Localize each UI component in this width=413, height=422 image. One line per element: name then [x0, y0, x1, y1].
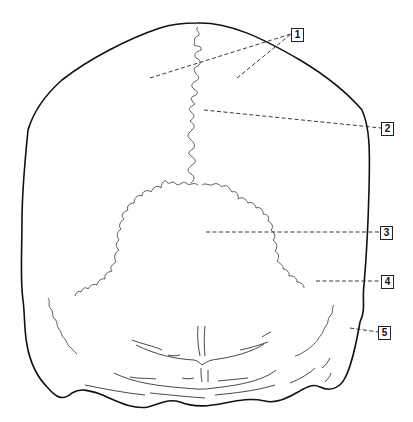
- nuchal-lines: [85, 326, 331, 398]
- skull-outline: [21, 23, 369, 408]
- occipitomastoid-suture-right: [295, 305, 334, 356]
- lambdoid-suture-right: [202, 184, 304, 288]
- leader-5: [350, 328, 378, 332]
- skull-posterior-view-drawing: [0, 0, 413, 422]
- label-3: 3: [380, 226, 393, 240]
- label-5: 5: [378, 326, 391, 340]
- leader-lines: [150, 34, 381, 332]
- label-4: 4: [381, 275, 394, 289]
- occipitomastoid-suture-left: [48, 298, 77, 354]
- leader-2: [204, 110, 381, 128]
- sagittal-suture: [188, 27, 201, 183]
- label-2: 2: [381, 122, 394, 136]
- lambdoid-suture-left: [75, 181, 198, 296]
- leader-1a: [150, 34, 291, 78]
- label-1: 1: [291, 28, 304, 42]
